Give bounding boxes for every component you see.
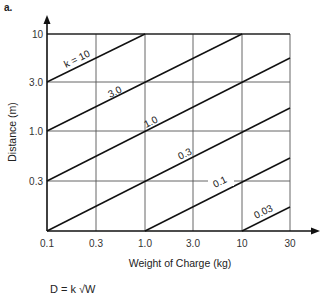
formula: D = k √W bbox=[50, 283, 95, 295]
chart: k = 10 3.0 1.0 0.3 0.1 0.03 10 3.0 1.0 0… bbox=[0, 0, 326, 307]
y-tick: 1.0 bbox=[29, 126, 43, 137]
k-label-0.3: 0.3 bbox=[176, 146, 194, 162]
line-k-3 bbox=[47, 34, 242, 131]
x-tick-labels: 0.1 0.3 1.0 3.0 10 30 bbox=[40, 238, 296, 249]
y-tick: 10 bbox=[32, 29, 44, 40]
x-tick: 10 bbox=[236, 238, 248, 249]
y-axis-label: Distance (m) bbox=[6, 102, 18, 162]
k-label-0.03: 0.03 bbox=[252, 202, 275, 221]
line-k-0.1 bbox=[145, 158, 290, 231]
x-axis-arrow-icon bbox=[311, 228, 320, 235]
y-tick-labels: 10 3.0 1.0 0.3 bbox=[29, 29, 43, 187]
k-label-3: 3.0 bbox=[106, 84, 124, 100]
x-axis-label: Weight of Charge (kg) bbox=[129, 257, 232, 269]
line-k-1 bbox=[47, 58, 290, 181]
x-tick: 30 bbox=[284, 238, 296, 249]
k-labels: k = 10 3.0 1.0 0.3 0.1 0.03 bbox=[62, 48, 275, 221]
x-tick: 0.1 bbox=[40, 238, 54, 249]
y-tick: 0.3 bbox=[29, 176, 43, 187]
x-tick: 3.0 bbox=[186, 238, 200, 249]
x-tick: 0.3 bbox=[89, 238, 103, 249]
y-tick: 3.0 bbox=[29, 77, 43, 88]
x-tick: 1.0 bbox=[138, 238, 152, 249]
k-lines bbox=[47, 34, 290, 231]
y-axis-arrow-icon bbox=[44, 15, 51, 24]
